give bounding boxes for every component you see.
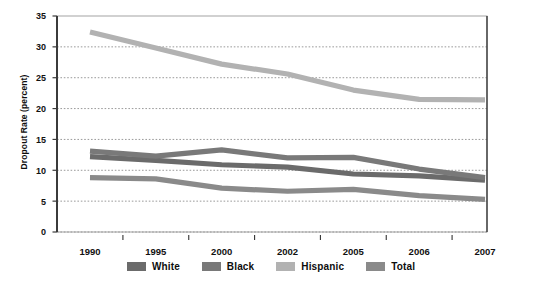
- chart-container: Dropout Rate (percent) 05101520253035 19…: [0, 0, 542, 294]
- y-axis-tick-label: 10: [36, 166, 46, 176]
- x-axis-tick-label: 2005: [343, 246, 365, 257]
- x-axis-tick-label: 2002: [277, 246, 298, 257]
- legend-label: White: [152, 261, 180, 272]
- series-group: [90, 32, 485, 199]
- legend-swatch-icon: [366, 262, 385, 271]
- y-axis-tick-label: 20: [36, 104, 46, 114]
- x-axis-tick-label: 2007: [474, 246, 495, 257]
- y-axis-tick-label: 15: [36, 135, 46, 145]
- legend-item-white[interactable]: White: [127, 261, 180, 272]
- series-line-total: [90, 178, 485, 200]
- legend-swatch-icon: [127, 262, 146, 271]
- y-axis-tick-label: 0: [41, 227, 46, 237]
- y-axis-tick-label: 35: [36, 11, 46, 21]
- gridlines-group: [57, 47, 487, 232]
- chart-legend: WhiteBlackHispanicTotal: [0, 261, 542, 272]
- y-axis-tick-label: 25: [36, 73, 46, 83]
- legend-item-total[interactable]: Total: [366, 261, 415, 272]
- legend-item-black[interactable]: Black: [202, 261, 254, 272]
- series-line-hispanic: [90, 32, 485, 100]
- x-axis-ticks-group: 1990199520002002200520062007: [79, 235, 495, 257]
- series-line-black: [90, 150, 485, 178]
- legend-label: Hispanic: [301, 261, 344, 272]
- plot-frame: [57, 16, 487, 232]
- line-chart-plot: 05101520253035 1990199520002002200520062…: [0, 0, 542, 294]
- legend-item-hispanic[interactable]: Hispanic: [276, 261, 344, 272]
- plot-border: [57, 16, 487, 232]
- legend-label: Black: [227, 261, 254, 272]
- x-axis-tick-label: 2006: [409, 246, 430, 257]
- legend-swatch-icon: [276, 262, 295, 271]
- x-axis-tick-label: 1990: [79, 246, 100, 257]
- legend-label: Total: [391, 261, 415, 272]
- y-axis-tick-label: 5: [41, 197, 46, 207]
- x-axis-tick-label: 1995: [145, 246, 167, 257]
- y-axis-tick-label: 30: [36, 42, 46, 52]
- x-axis-tick-label: 2000: [211, 246, 232, 257]
- legend-swatch-icon: [202, 262, 221, 271]
- y-axis-ticks-group: 05101520253035: [36, 11, 57, 237]
